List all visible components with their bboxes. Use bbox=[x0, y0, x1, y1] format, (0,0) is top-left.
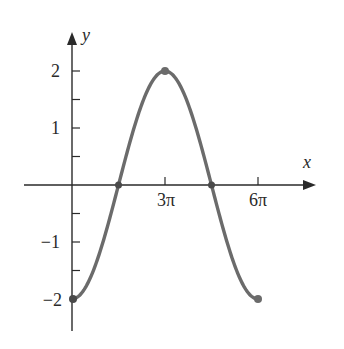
y-axis-arrow-icon bbox=[67, 32, 77, 45]
x-tick-label-6pi: 6π bbox=[249, 190, 267, 210]
y-tick-label-minus-2: −2 bbox=[43, 290, 62, 310]
y-tick-label-1: 1 bbox=[51, 118, 60, 138]
x-tick-label-3pi: 3π bbox=[157, 190, 175, 210]
y-ticks bbox=[72, 71, 80, 271]
x-axis-arrow-icon bbox=[303, 180, 316, 190]
x-axis-label: x bbox=[302, 152, 311, 172]
y-tick-label-2: 2 bbox=[51, 61, 60, 81]
y-tick-label-minus-1: −1 bbox=[41, 232, 60, 252]
chart: 2 1 −1 −2 3π 6π y x bbox=[0, 0, 344, 349]
point-start bbox=[69, 295, 77, 303]
point-zero-2 bbox=[208, 182, 215, 189]
axes bbox=[24, 32, 316, 331]
point-end bbox=[254, 295, 262, 303]
y-axis-label: y bbox=[80, 25, 90, 45]
point-peak bbox=[161, 67, 169, 75]
point-zero-1 bbox=[115, 182, 122, 189]
